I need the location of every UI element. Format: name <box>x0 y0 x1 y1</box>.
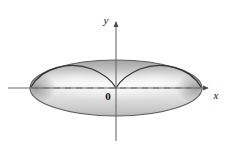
figure-container: y x 0 <box>0 0 228 151</box>
solid-of-revolution-figure: y x 0 <box>0 0 228 151</box>
x-axis-label: x <box>213 89 219 101</box>
origin-label: 0 <box>105 90 111 102</box>
y-axis-label: y <box>103 14 109 26</box>
